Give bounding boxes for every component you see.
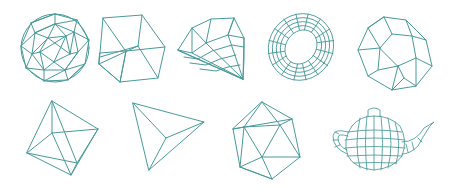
octahedron-icon [24, 99, 100, 179]
diamond-icon [176, 13, 246, 83]
torus-icon [264, 10, 338, 84]
teapot-icon [330, 102, 450, 174]
torus-wireframe [264, 10, 338, 84]
cube-icon [98, 14, 170, 84]
cube-wireframe [98, 14, 170, 84]
dodecahedron-wireframe [356, 14, 434, 92]
icosahedron-wireframe [230, 99, 306, 183]
teapot-wireframe [330, 102, 450, 174]
geodesic-sphere-icon [18, 12, 92, 84]
diamond-wireframe [176, 13, 246, 83]
tetrahedron-icon [130, 100, 206, 172]
icosahedron-icon [230, 99, 306, 183]
octahedron-wireframe [24, 99, 100, 179]
dodecahedron-icon [356, 14, 434, 92]
geodesic-sphere-wireframe [18, 12, 92, 84]
tetrahedron-wireframe [130, 100, 206, 172]
